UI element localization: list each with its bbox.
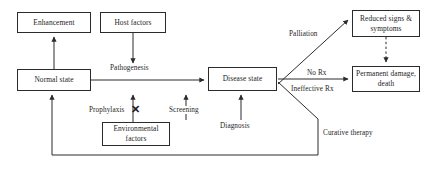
edge-label-prophylaxis: Prophylaxis	[88, 106, 125, 114]
node-environmental-factors-label: Environmental factors	[103, 124, 169, 144]
node-normal-state[interactable]: Normal state	[17, 69, 91, 91]
edge-label-palliation: Palliation	[288, 30, 319, 38]
edge-label-diagnosis: Diagnosis	[219, 122, 251, 130]
node-reduced-signs-symptoms[interactable]: Reduced signs & symptoms	[352, 10, 420, 37]
node-host-factors-label: Host factors	[112, 18, 153, 28]
node-disease-state[interactable]: Disease state	[208, 67, 277, 91]
diagram-canvas: Enhancement Host factors Normal state Di…	[0, 0, 436, 174]
node-host-factors[interactable]: Host factors	[100, 12, 166, 33]
edge-label-curative-therapy: Curative therapy	[322, 129, 374, 137]
node-environmental-factors[interactable]: Environmental factors	[102, 122, 170, 146]
node-enhancement-label: Enhancement	[31, 18, 76, 28]
node-normal-state-label: Normal state	[32, 75, 75, 85]
edge-curative-therapy-return	[52, 82, 318, 155]
blocked-cross-icon: ✕	[131, 104, 140, 115]
node-reduced-signs-symptoms-label: Reduced signs & symptoms	[353, 14, 419, 34]
edge-label-pathogenesis: Pathogenesis	[109, 64, 150, 72]
edge-label-ineffective-rx: Ineffective Rx	[290, 85, 335, 93]
edge-label-no-rx: No Rx	[306, 69, 327, 77]
node-permanent-damage-death[interactable]: Permanent damage, death	[352, 66, 420, 92]
node-permanent-damage-death-label: Permanent damage, death	[353, 69, 419, 89]
node-disease-state-label: Disease state	[221, 74, 265, 84]
edge-label-screening: Screening	[168, 106, 200, 114]
node-enhancement[interactable]: Enhancement	[17, 12, 91, 33]
